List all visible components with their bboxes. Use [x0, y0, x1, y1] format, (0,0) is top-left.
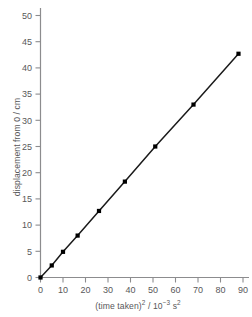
x-tick-label: 80 [215, 285, 225, 295]
x-tick-label: 70 [193, 285, 203, 295]
data-point [76, 233, 80, 237]
data-line [41, 54, 239, 278]
data-point [123, 180, 127, 184]
data-point [191, 102, 195, 106]
data-point [38, 275, 42, 279]
axis-lines [41, 8, 250, 278]
x-axis-ticks [41, 278, 244, 283]
x-axis-tick-labels: 0 10 20 30 40 50 60 70 80 90 [38, 285, 248, 295]
x-tick-label: 20 [80, 285, 90, 295]
x-tick-label: 50 [148, 285, 158, 295]
x-axis-title-base: (time taken) [95, 301, 142, 311]
x-axis-title: (time taken)2 / 10−3 s2 [0, 299, 252, 311]
y-tick-label: 10 [22, 220, 32, 230]
x-tick-label: 30 [103, 285, 113, 295]
x-tick-label: 10 [58, 285, 68, 295]
x-tick-label: 0 [38, 285, 43, 295]
data-point [50, 263, 54, 267]
x-tick-label: 90 [238, 285, 248, 295]
y-tick-label: 45 [22, 37, 32, 47]
y-axis-title: displacement from 0 / cm [12, 62, 22, 232]
x-axis-title-mid: / 10 [145, 301, 162, 311]
x-tick-label: 60 [170, 285, 180, 295]
y-tick-label: 30 [22, 116, 32, 126]
data-point [61, 250, 65, 254]
y-axis-ticks [36, 16, 41, 278]
y-tick-label: 0 [27, 273, 32, 283]
y-tick-label: 50 [22, 11, 32, 21]
data-point [153, 144, 157, 148]
chart-container: 0 5 10 15 20 25 30 35 40 45 50 0 [0, 0, 252, 317]
y-axis-tick-labels: 0 5 10 15 20 25 30 35 40 45 50 [22, 11, 32, 283]
plot-area: 0 5 10 15 20 25 30 35 40 45 50 0 [0, 0, 252, 317]
y-tick-label: 20 [22, 168, 32, 178]
y-tick-label: 15 [22, 194, 32, 204]
x-axis-title-unit-exponent: 2 [177, 299, 181, 306]
y-tick-label: 25 [22, 142, 32, 152]
data-point [236, 52, 240, 56]
y-tick-label: 35 [22, 89, 32, 99]
y-tick-label: 40 [22, 63, 32, 73]
x-tick-label: 40 [125, 285, 135, 295]
data-point [97, 209, 101, 213]
y-tick-label: 5 [27, 247, 32, 257]
